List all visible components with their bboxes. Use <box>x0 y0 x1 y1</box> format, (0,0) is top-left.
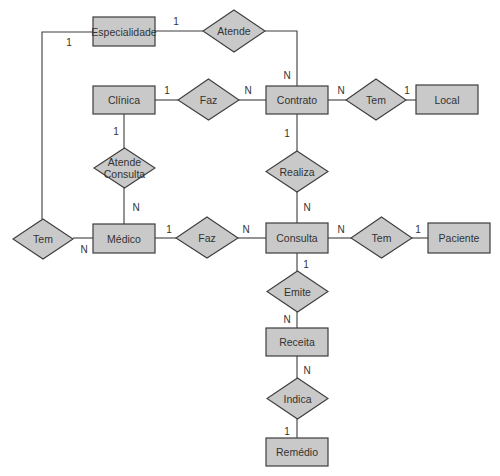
cardinality-faz-contrato: N <box>244 85 251 96</box>
cardinality-clinica-atende-consulta: 1 <box>113 126 119 137</box>
cardinality-realiza-consulta: N <box>303 202 310 213</box>
entity-receita[interactable]: Receita <box>266 328 328 356</box>
relationship-tem-consulta-paciente[interactable]: Tem <box>351 217 412 258</box>
relationship-label: Atende <box>217 25 250 37</box>
entity-label: Consulta <box>276 232 318 244</box>
relationship-indica[interactable]: Indica <box>267 378 328 419</box>
relationship-label-line-2: Consulta <box>104 168 146 180</box>
relationship-label: Tem <box>33 233 53 245</box>
entity-label: Paciente <box>439 232 480 244</box>
entity-remedio[interactable]: Remédio <box>266 438 328 466</box>
cardinality-atende-consulta-medico: N <box>132 202 139 213</box>
entity-label: Contrato <box>277 94 317 106</box>
entity-label: Médico <box>107 233 141 245</box>
cardinality-emite-receita: N <box>283 314 290 325</box>
relationship-label: Emite <box>284 286 311 298</box>
entity-especialidade[interactable]: Especialidade <box>91 17 157 46</box>
relationship-label: Faz <box>200 94 218 106</box>
relationship-faz-clinica-contrato[interactable]: Faz <box>178 79 239 120</box>
relationship-label: Tem <box>366 94 386 106</box>
cardinality-tem-medico: N <box>80 244 87 255</box>
entity-label: Clínica <box>108 94 140 106</box>
cardinality-especialidade-tem: 1 <box>66 37 72 48</box>
cardinality-contrato-realiza: 1 <box>284 128 290 139</box>
cardinality-consulta-tem: N <box>337 224 344 235</box>
entity-consulta[interactable]: Consulta <box>266 223 328 253</box>
entity-label: Especialidade <box>91 26 157 38</box>
relationship-atende-consulta[interactable]: Atende Consulta <box>94 148 155 188</box>
relationship-label: Indica <box>283 393 311 405</box>
entity-label: Remédio <box>276 446 318 458</box>
entity-label: Local <box>434 94 459 106</box>
er-diagram: Especialidade Clínica Contrato Local Méd… <box>0 0 500 476</box>
relationship-emite[interactable]: Emite <box>267 271 328 312</box>
edge-especialidade-tem-esp <box>42 32 93 219</box>
cardinality-consulta-emite: 1 <box>303 259 309 270</box>
cardinality-receita-indica: N <box>303 365 310 376</box>
edge-atende-contrato <box>265 31 297 86</box>
entity-contrato[interactable]: Contrato <box>266 86 328 114</box>
relationship-tem-contrato-local[interactable]: Tem <box>346 79 406 120</box>
relationship-label-line-1: Atende <box>108 156 141 168</box>
cardinality-especialidade-atende: 1 <box>173 16 179 27</box>
entity-medico[interactable]: Médico <box>93 224 155 253</box>
cardinality-atende-contrato: N <box>283 70 290 81</box>
entity-label: Receita <box>279 336 315 348</box>
entity-local[interactable]: Local <box>416 85 478 114</box>
relationship-atende[interactable]: Atende <box>203 10 265 52</box>
relationship-faz-medico-consulta[interactable]: Faz <box>176 217 238 258</box>
relationship-tem-especialidade-medico[interactable]: Tem <box>13 219 73 259</box>
cardinality-clinica-faz: 1 <box>164 85 170 96</box>
cardinality-tem-local: 1 <box>404 85 410 96</box>
relationship-label: Realiza <box>279 166 314 178</box>
entity-paciente[interactable]: Paciente <box>428 223 490 253</box>
entity-clinica[interactable]: Clínica <box>93 86 155 114</box>
relationship-realiza[interactable]: Realiza <box>266 151 328 192</box>
relationship-label: Faz <box>198 232 216 244</box>
cardinality-tem-paciente: 1 <box>415 224 421 235</box>
relationship-label: Tem <box>372 232 392 244</box>
cardinality-medico-faz: 1 <box>166 224 172 235</box>
cardinality-indica-remedio: 1 <box>284 426 290 437</box>
cardinality-contrato-tem: N <box>337 85 344 96</box>
cardinality-faz-consulta: N <box>242 224 249 235</box>
